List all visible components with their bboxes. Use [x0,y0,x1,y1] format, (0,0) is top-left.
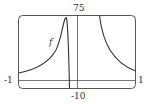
function-plot [0,0,148,104]
y-min-label: -10 [71,92,86,101]
curve-label-f: f [49,38,52,47]
curve-f-left-branch [19,18,70,89]
plot-window-frame [19,16,136,89]
curve-f-right-branch [100,16,136,72]
x-min-label: -1 [4,76,13,85]
x-max-label: 1 [138,76,144,85]
y-max-label: 75 [73,4,84,13]
